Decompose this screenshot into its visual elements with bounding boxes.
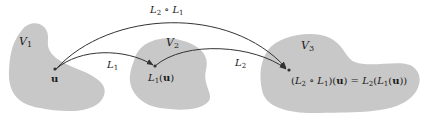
point-l1u [153,64,156,67]
point-u [53,67,56,70]
label-v2: V2 [166,36,179,50]
label-arrow-composite: L2 ∘ L1 [149,4,184,17]
region-v3 [260,34,419,113]
point-composite [287,68,290,71]
linear-map-composition-diagram: V1 V2 V3 u L1(u) L1 L2 L2 ∘ L1 (L2 ∘ L1)… [0,0,427,121]
label-arrow-l2: L2 [234,57,246,70]
label-arrow-l1: L1 [106,59,118,72]
label-u: u [51,73,58,84]
